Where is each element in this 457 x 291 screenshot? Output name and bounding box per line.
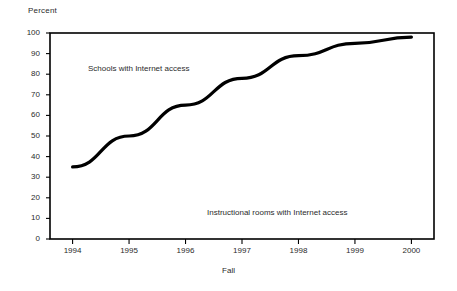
series-annotation-instructional-rooms: Instructional rooms with Internet access <box>207 208 348 217</box>
data-series-line <box>73 37 412 167</box>
y-tick-label: 90 <box>20 49 40 58</box>
y-tick-label: 50 <box>20 131 40 140</box>
x-axis-title: Fall <box>0 266 457 275</box>
y-tick-label: 30 <box>20 172 40 181</box>
y-tick-label: 20 <box>20 193 40 202</box>
y-tick-label: 70 <box>20 90 40 99</box>
y-tick-label: 60 <box>20 110 40 119</box>
x-tick-label: 1997 <box>222 246 262 255</box>
x-tick-label: 1998 <box>278 246 318 255</box>
chart-figure: Percent 0102030405060708090100 199419951… <box>0 0 457 291</box>
x-tick-label: 1999 <box>335 246 375 255</box>
x-tick-label: 1994 <box>53 246 93 255</box>
x-tick-label: 1996 <box>166 246 206 255</box>
series-line-schools-with-internet-access <box>73 37 412 167</box>
y-tick-label: 10 <box>20 213 40 222</box>
series-annotation-schools: Schools with Internet access <box>88 64 189 73</box>
x-tick-label: 1995 <box>109 246 149 255</box>
y-tick-label: 0 <box>20 234 40 243</box>
y-tick-label: 80 <box>20 69 40 78</box>
y-tick-label: 40 <box>20 152 40 161</box>
x-tick-label: 2000 <box>391 246 431 255</box>
y-tick-label: 100 <box>20 28 40 37</box>
